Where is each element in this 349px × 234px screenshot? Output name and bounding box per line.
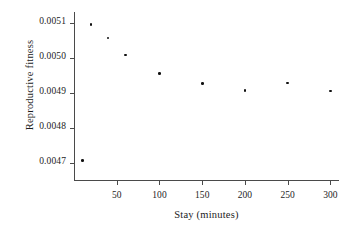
x-tick-label: 300: [323, 190, 338, 200]
x-tick: [245, 180, 246, 185]
x-tick-label: 100: [152, 190, 167, 200]
y-tick: 0.0048: [70, 128, 75, 129]
data-point: [90, 23, 93, 26]
data-point: [158, 72, 161, 75]
scatter-chart-figure: Reproductive fitness 0.00470.00480.00490…: [0, 0, 349, 234]
data-point: [329, 90, 332, 93]
data-point: [244, 89, 247, 92]
x-tick: [330, 180, 331, 185]
y-tick: 0.0047: [70, 163, 75, 164]
y-tick-label: 0.0047: [39, 156, 66, 166]
y-axis-title: Reproductive fitness: [20, 0, 40, 170]
y-tick-label: 0.0051: [39, 16, 66, 26]
x-tick: [202, 180, 203, 185]
x-tick-label: 200: [238, 190, 253, 200]
x-tick-label: 150: [195, 190, 210, 200]
x-tick: [288, 180, 289, 185]
data-point: [81, 159, 84, 162]
data-point: [201, 82, 204, 85]
plot-area: 0.00470.00480.00490.00500.0051 501001502…: [74, 12, 339, 180]
y-axis-line: [74, 12, 75, 180]
y-tick-label: 0.0048: [39, 121, 66, 131]
y-tick-label: 0.0049: [39, 86, 66, 96]
y-tick-label: 0.0050: [39, 51, 66, 61]
y-tick: 0.0049: [70, 93, 75, 94]
data-point: [124, 54, 127, 57]
y-tick: 0.0051: [70, 23, 75, 24]
y-tick: 0.0050: [70, 58, 75, 59]
x-tick-label: 250: [280, 190, 295, 200]
x-tick: [117, 180, 118, 185]
x-axis-title: Stay (minutes): [74, 209, 339, 220]
x-tick-label: 50: [112, 190, 122, 200]
data-point: [286, 82, 289, 85]
x-axis-line: [74, 180, 339, 181]
data-point: [107, 37, 110, 40]
x-tick: [159, 180, 160, 185]
